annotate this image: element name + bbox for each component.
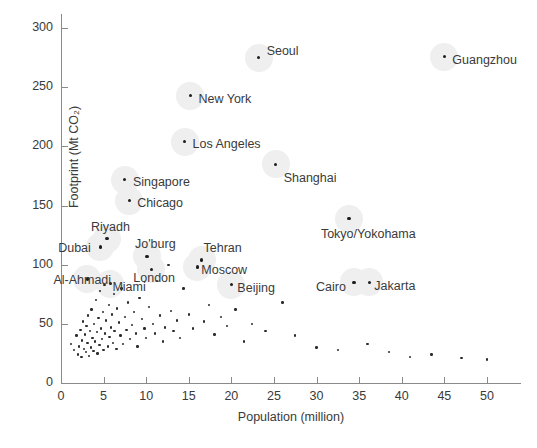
data-point[interactable] [141, 318, 143, 320]
data-point[interactable] [183, 140, 186, 143]
data-point[interactable] [90, 346, 92, 348]
data-point[interactable] [113, 330, 115, 332]
data-point[interactable] [127, 301, 129, 303]
data-point[interactable] [102, 311, 104, 313]
data-point[interactable] [162, 340, 164, 342]
data-point[interactable] [94, 340, 96, 342]
data-point[interactable] [251, 323, 253, 325]
data-point[interactable] [104, 332, 106, 334]
data-point[interactable] [133, 311, 135, 313]
data-point[interactable] [97, 317, 99, 319]
data-point[interactable] [125, 329, 127, 331]
data-point[interactable] [88, 355, 90, 357]
data-point[interactable] [172, 330, 174, 332]
data-point[interactable] [388, 351, 390, 353]
data-point[interactable] [135, 332, 137, 334]
data-point[interactable] [93, 323, 95, 325]
data-point[interactable] [73, 349, 75, 351]
data-point[interactable] [196, 265, 199, 268]
data-point[interactable] [111, 313, 113, 315]
data-point[interactable] [99, 290, 101, 292]
data-point[interactable] [143, 327, 145, 329]
data-point[interactable] [179, 337, 181, 339]
data-point[interactable] [138, 297, 140, 299]
data-point[interactable] [81, 339, 83, 341]
data-point[interactable] [167, 264, 169, 266]
data-point[interactable] [230, 283, 233, 286]
data-point[interactable] [281, 301, 283, 303]
data-point[interactable] [115, 348, 117, 350]
data-point[interactable] [243, 340, 245, 342]
data-point[interactable] [352, 281, 355, 284]
data-point[interactable] [70, 343, 72, 345]
data-point[interactable] [99, 245, 102, 248]
data-point[interactable] [257, 56, 260, 59]
data-point[interactable] [105, 237, 108, 240]
data-point[interactable] [203, 320, 205, 322]
data-point[interactable] [83, 348, 85, 350]
data-point[interactable] [145, 255, 148, 258]
data-point[interactable] [95, 299, 97, 301]
data-point[interactable] [443, 55, 446, 58]
data-point[interactable] [208, 304, 210, 306]
data-point[interactable] [145, 337, 147, 339]
data-point[interactable] [92, 350, 94, 352]
data-point[interactable] [366, 343, 368, 345]
data-point[interactable] [315, 346, 317, 348]
data-point[interactable] [91, 337, 93, 339]
data-point[interactable] [368, 281, 371, 284]
data-point[interactable] [122, 343, 124, 345]
data-point[interactable] [82, 320, 84, 322]
data-point[interactable] [123, 178, 126, 181]
data-point[interactable] [80, 356, 82, 358]
data-point[interactable] [98, 344, 100, 346]
data-point[interactable] [89, 330, 91, 332]
data-point[interactable] [129, 338, 131, 340]
data-point[interactable] [85, 351, 87, 353]
data-point[interactable] [90, 308, 92, 310]
data-point[interactable] [486, 358, 488, 360]
data-point[interactable] [87, 314, 89, 316]
data-point[interactable] [128, 199, 131, 202]
data-point[interactable] [200, 258, 203, 261]
data-point[interactable] [213, 333, 215, 335]
data-point[interactable] [409, 356, 411, 358]
data-point[interactable] [85, 325, 87, 327]
data-point[interactable] [188, 313, 190, 315]
data-point[interactable] [108, 304, 110, 306]
data-point[interactable] [110, 326, 112, 328]
data-point[interactable] [131, 324, 133, 326]
data-point[interactable] [148, 306, 150, 308]
data-point[interactable] [119, 334, 121, 336]
data-point[interactable] [96, 352, 98, 354]
data-point[interactable] [96, 331, 98, 333]
data-point[interactable] [78, 345, 80, 347]
data-point[interactable] [189, 94, 192, 97]
data-point[interactable] [264, 330, 266, 332]
data-point[interactable] [100, 327, 102, 329]
data-point[interactable] [112, 342, 114, 344]
data-point[interactable] [192, 327, 194, 329]
data-point[interactable] [294, 334, 296, 336]
data-point[interactable] [101, 338, 103, 340]
data-point[interactable] [108, 336, 110, 338]
data-point[interactable] [182, 287, 184, 289]
data-point[interactable] [79, 329, 81, 331]
data-point[interactable] [152, 323, 154, 325]
data-point[interactable] [337, 349, 339, 351]
data-point[interactable] [86, 342, 88, 344]
data-point[interactable] [164, 326, 166, 328]
data-point[interactable] [176, 319, 178, 321]
data-point[interactable] [430, 353, 432, 355]
data-point[interactable] [154, 332, 156, 334]
data-point[interactable] [77, 353, 79, 355]
data-point[interactable] [116, 307, 118, 309]
data-point[interactable] [124, 316, 126, 318]
data-point[interactable] [159, 314, 161, 316]
data-point[interactable] [170, 310, 172, 312]
data-point[interactable] [102, 349, 104, 351]
data-point[interactable] [105, 319, 107, 321]
data-point[interactable] [118, 321, 120, 323]
data-point[interactable] [234, 308, 236, 310]
data-point[interactable] [226, 325, 228, 327]
